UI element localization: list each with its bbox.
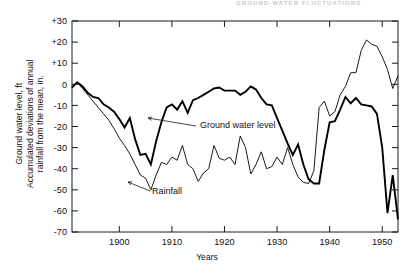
y-tick-label: 0 xyxy=(62,80,67,90)
y-axis-label: Ground water level, ft Accumulated devia… xyxy=(14,14,46,234)
annotation-rainfall: Rainfall xyxy=(128,182,182,196)
y-tick-label: +20 xyxy=(51,37,67,47)
x-tick-label: 1910 xyxy=(162,237,182,247)
y-tick-label: -20 xyxy=(54,122,67,132)
x-tick-label: 1920 xyxy=(214,237,234,247)
annotation-ground-water-level: Ground water level xyxy=(148,117,276,130)
y-tick-label: -10 xyxy=(54,101,67,111)
x-tick-label: 1900 xyxy=(109,237,129,247)
y-tick-label: +10 xyxy=(51,58,67,68)
x-axis-ticks: 190019101920193019401950 xyxy=(109,21,392,247)
chart-plot: +30+20+100-10-20-30-40-50-60-70 19001910… xyxy=(0,0,414,273)
page-header-text: GROUND-WATER FLUCTUATIONS xyxy=(236,0,414,7)
figure-container: GROUND-WATER FLUCTUATIONS Ground water l… xyxy=(0,0,414,273)
annotation-label: Ground water level xyxy=(200,120,276,130)
annotation-layer: Ground water levelRainfall xyxy=(128,117,276,196)
x-tick-label: 1930 xyxy=(267,237,287,247)
y-tick-label: -70 xyxy=(54,227,67,237)
y-tick-label: -50 xyxy=(54,185,67,195)
y-tick-label: -30 xyxy=(54,143,67,153)
x-tick-label: 1950 xyxy=(372,237,392,247)
annotation-label: Rainfall xyxy=(152,186,182,196)
y-tick-label: -60 xyxy=(54,206,67,216)
series-line-ground-water-level xyxy=(72,82,398,219)
y-tick-label: -40 xyxy=(54,164,67,174)
x-tick-label: 1940 xyxy=(319,237,339,247)
series-line-rainfall xyxy=(72,40,398,190)
x-axis-label: Years xyxy=(0,252,414,262)
y-tick-label: +30 xyxy=(51,16,67,26)
